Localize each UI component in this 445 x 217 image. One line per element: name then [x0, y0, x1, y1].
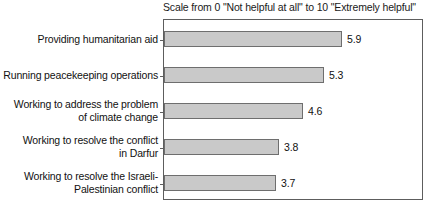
- bar-1: [164, 67, 324, 83]
- category-axis: Providing humanitarian aid Running peace…: [0, 19, 158, 200]
- bar-value-2: 4.6: [308, 104, 322, 118]
- bar-row: 5.3: [164, 67, 423, 83]
- category-label-4: Working to resolve the Israeli- Palestin…: [0, 170, 158, 195]
- bar-0: [164, 31, 342, 47]
- category-label-2: Working to address the problem of climat…: [0, 98, 158, 123]
- bar-2: [164, 103, 303, 119]
- category-label-2-line-1: of climate change: [0, 111, 158, 124]
- bar-row: 5.9: [164, 31, 423, 47]
- bar-value-3: 3.8: [284, 140, 298, 154]
- bar-4: [164, 175, 276, 191]
- bar-row: 3.7: [164, 175, 423, 191]
- bar-row: 4.6: [164, 103, 423, 119]
- category-label-0-line-0: Providing humanitarian aid: [0, 33, 158, 46]
- category-label-1-line-0: Running peacekeeping operations: [0, 69, 158, 82]
- category-label-3-line-0: Working to resolve the conflict: [0, 134, 158, 147]
- bar-chart: Scale from 0 "Not helpful at all" to 10 …: [0, 0, 445, 217]
- bar-value-0: 5.9: [347, 32, 361, 46]
- category-label-4-line-0: Working to resolve the Israeli-: [0, 170, 158, 183]
- bars-layer: 5.9 5.3 4.6 3.8 3.7: [164, 19, 423, 200]
- category-label-2-line-0: Working to address the problem: [0, 98, 158, 111]
- chart-title: Scale from 0 "Not helpful at all" to 10 …: [163, 1, 438, 14]
- category-label-3: Working to resolve the conflict in Darfu…: [0, 134, 158, 159]
- category-label-3-line-1: in Darfur: [0, 147, 158, 160]
- category-label-0: Providing humanitarian aid: [0, 33, 158, 46]
- bar-value-1: 5.3: [329, 68, 343, 82]
- category-label-1: Running peacekeeping operations: [0, 69, 158, 82]
- bar-3: [164, 139, 279, 155]
- category-label-4-line-1: Palestinian conflict: [0, 183, 158, 196]
- bar-row: 3.8: [164, 139, 423, 155]
- bar-value-4: 3.7: [281, 176, 295, 190]
